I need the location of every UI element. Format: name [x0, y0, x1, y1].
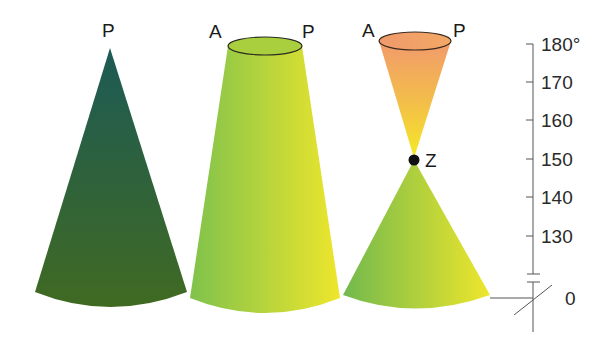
cone-pointed: [35, 48, 187, 307]
cone-diagram: P A P A P Z 180° 170 160 150 140 130 0: [0, 0, 605, 346]
label-a-cone2: A: [209, 21, 222, 42]
label-p-cone1: P: [102, 20, 115, 41]
tick-180: 180°: [541, 34, 580, 55]
cone-double: [343, 32, 490, 309]
label-a-cone3: A: [362, 20, 375, 41]
tick-0: 0: [565, 288, 576, 309]
tick-170: 170: [541, 72, 573, 93]
apex-point: [409, 155, 420, 166]
tick-160: 160: [541, 110, 573, 131]
tick-150: 150: [541, 149, 573, 170]
label-p-cone3: P: [453, 20, 466, 41]
tick-130: 130: [541, 226, 573, 247]
label-p-cone2: P: [302, 21, 315, 42]
tick-140: 140: [541, 187, 573, 208]
cone-truncated: [190, 37, 340, 313]
label-z: Z: [425, 150, 437, 171]
